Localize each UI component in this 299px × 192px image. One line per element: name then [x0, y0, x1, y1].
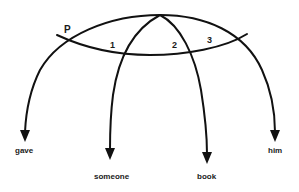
arrowhead-gave: [20, 130, 30, 142]
label-someone: someone: [94, 172, 130, 181]
label-p: P: [64, 24, 71, 35]
arc-to-him: [160, 15, 275, 132]
label-book: book: [197, 172, 217, 181]
arrowhead-someone: [105, 148, 115, 160]
label-2: 2: [172, 40, 177, 50]
label-him: him: [268, 146, 282, 155]
label-1: 1: [110, 40, 115, 50]
crossing-arc: [57, 34, 247, 55]
arrowhead-him: [270, 130, 280, 142]
label-3: 3: [207, 35, 212, 45]
arc-to-someone: [110, 15, 160, 150]
label-gave: gave: [15, 146, 34, 155]
diagram-canvas: P 1 2 3 gave someone book him: [0, 0, 299, 192]
arc-to-gave: [25, 15, 160, 132]
arc-to-book: [160, 15, 207, 154]
arrowhead-book: [202, 152, 212, 164]
